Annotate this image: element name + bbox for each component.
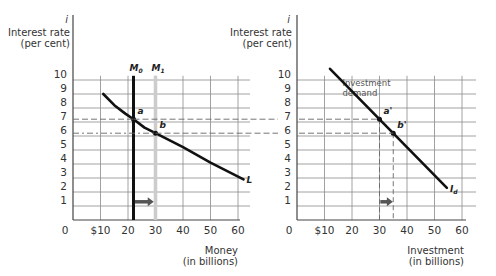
y-tick-label: 8 — [284, 96, 291, 108]
y-tick-label: 4 — [284, 152, 291, 164]
x-axis-title: (in billions) — [183, 256, 238, 267]
investment-demand-annotation: Investment — [342, 78, 391, 88]
shift-arrow-icon — [387, 197, 393, 206]
y-axis-title: (per cent) — [242, 38, 292, 49]
y-tick-label: 2 — [284, 180, 291, 192]
x-tick-label: $10 — [90, 224, 110, 236]
y-tick-label: 10 — [54, 68, 67, 80]
y-tick-label: 8 — [60, 96, 67, 108]
x-tick-label: 60 — [231, 224, 244, 236]
x-tick-label: 50 — [428, 224, 441, 236]
y-axis-title: (per cent) — [20, 38, 70, 49]
x-tick-label: 20 — [121, 224, 134, 236]
investment-demand-annotation: demand — [342, 88, 377, 98]
point-label: a' — [384, 106, 393, 116]
y-tick-label: 6 — [284, 124, 291, 136]
y-tick-label: 9 — [60, 82, 67, 94]
y-tick-label: 4 — [60, 152, 67, 164]
y-tick-label: 1 — [284, 194, 291, 206]
x-tick-label: 30 — [149, 224, 162, 236]
y-tick-label: 7 — [60, 110, 67, 122]
x-tick-label: 20 — [345, 224, 358, 236]
id-label: Id — [450, 184, 458, 195]
y-tick-label: 10 — [278, 68, 291, 80]
x-tick-label: 0 — [286, 224, 293, 236]
point-label: a — [138, 106, 144, 116]
y-tick-label: 5 — [284, 138, 291, 150]
investment-demand-panel: 123456789100$102030405060iInterest rate(… — [230, 14, 476, 267]
grid — [297, 76, 476, 220]
y-tick-label: 7 — [284, 110, 291, 122]
grid — [73, 76, 250, 220]
m1-label: M1 — [152, 63, 165, 74]
x-tick-label: 50 — [204, 224, 217, 236]
y-tick-label: 3 — [60, 166, 67, 178]
y-axis-symbol: i — [287, 14, 290, 25]
chart-figure: 123456789100$102030405060iInterest rate(… — [0, 0, 496, 276]
y-tick-label: 9 — [284, 82, 291, 94]
money-market-panel: 123456789100$102030405060iInterest rate(… — [8, 14, 253, 267]
y-axis-symbol: i — [65, 14, 68, 25]
y-tick-label: 6 — [60, 124, 67, 136]
y-tick-label: 5 — [60, 138, 67, 150]
x-tick-label: 0 — [62, 224, 69, 236]
x-tick-label: 40 — [176, 224, 189, 236]
y-tick-label: 1 — [60, 194, 67, 206]
y-axis-title: Interest rate — [230, 27, 292, 38]
x-axis-title: Investment — [407, 245, 464, 256]
l-label: L — [247, 175, 253, 185]
y-axis-title: Interest rate — [8, 27, 70, 38]
m0-label: M0 — [130, 63, 143, 74]
x-tick-label: 60 — [455, 224, 468, 236]
x-tick-label: 40 — [400, 224, 413, 236]
point-label: b' — [397, 120, 406, 130]
two-panel-chart: 123456789100$102030405060iInterest rate(… — [0, 0, 496, 276]
point-label: b — [160, 120, 167, 130]
l-curve — [103, 94, 243, 179]
y-tick-label: 3 — [284, 166, 291, 178]
y-tick-label: 2 — [60, 180, 67, 192]
shift-arrow-icon — [148, 197, 154, 206]
x-tick-label: 30 — [373, 224, 386, 236]
x-axis-title: (in billions) — [409, 256, 464, 267]
x-tick-label: $10 — [314, 224, 334, 236]
x-axis-title: Money — [205, 245, 238, 256]
